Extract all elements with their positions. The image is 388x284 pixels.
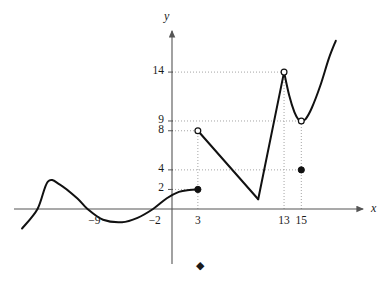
y-tick-label-2: 2 xyxy=(132,181,164,193)
x-axis-label: x xyxy=(371,201,376,216)
open-point-15-9 xyxy=(298,118,304,124)
x-tick-label-3: 3 xyxy=(182,214,214,226)
y-tick-label-4: 4 xyxy=(132,162,164,174)
graph-figure: y x 248914−9−231315 ◆ xyxy=(0,0,388,284)
x-tick-label-neg9: −9 xyxy=(78,214,110,226)
right-valley-curve xyxy=(284,41,336,121)
x-tick-label-neg2: −2 xyxy=(139,214,171,226)
open-point-13-14 xyxy=(281,69,287,75)
footer-diamond-marker: ◆ xyxy=(196,259,204,272)
closed-point-15-4 xyxy=(298,167,304,173)
closed-point-3-2 xyxy=(195,186,201,192)
x-tick-label-15: 15 xyxy=(285,214,317,226)
coordinate-plane-svg xyxy=(0,0,388,284)
y-axis-label: y xyxy=(164,9,169,24)
open-point-3-8 xyxy=(195,128,201,134)
y-tick-label-14: 14 xyxy=(132,64,164,76)
descending-segment xyxy=(198,131,258,199)
axes-group xyxy=(14,31,363,264)
guide-lines-group xyxy=(172,72,301,209)
y-tick-label-9: 9 xyxy=(132,113,164,125)
function-curves-group xyxy=(22,41,336,229)
rising-segment xyxy=(258,72,284,199)
